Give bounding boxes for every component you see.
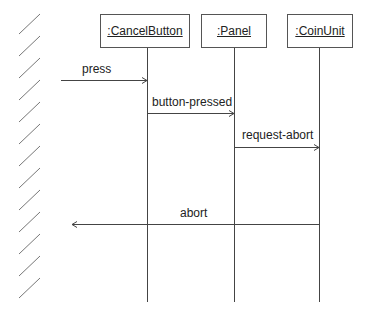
press-arrow [61,78,147,84]
button-pressed-arrow [147,111,234,117]
request-abort-label: request-abort [242,128,313,142]
button-pressed-label: button-pressed [152,95,232,109]
request-abort-arrow [234,145,319,151]
message-arrows [0,0,371,319]
abort-label: abort [180,206,207,220]
abort-arrow [72,222,319,228]
press-label: press [82,62,111,76]
